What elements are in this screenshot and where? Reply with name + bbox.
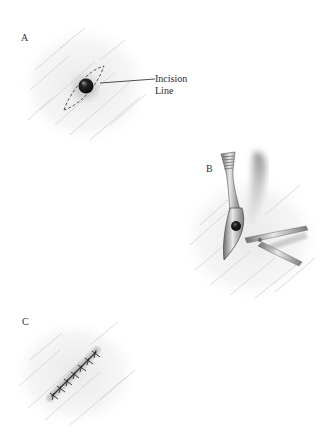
excised-lesion [231, 221, 241, 231]
lesion-highlight [82, 81, 86, 85]
panel-a: Incision Line A [17, 23, 187, 147]
panel-label-a: A [21, 32, 29, 43]
callout-text-line1: Incision [155, 73, 187, 84]
panel-label-c: C [22, 316, 29, 327]
scissors-pivot [258, 238, 262, 242]
lesion [79, 79, 94, 94]
excision-figure: Incision Line A [0, 0, 325, 432]
callout-text-line2: Line [155, 85, 174, 96]
panel-c: C [10, 316, 140, 429]
panel-b: B [178, 152, 322, 304]
panel-label-b: B [206, 163, 213, 174]
